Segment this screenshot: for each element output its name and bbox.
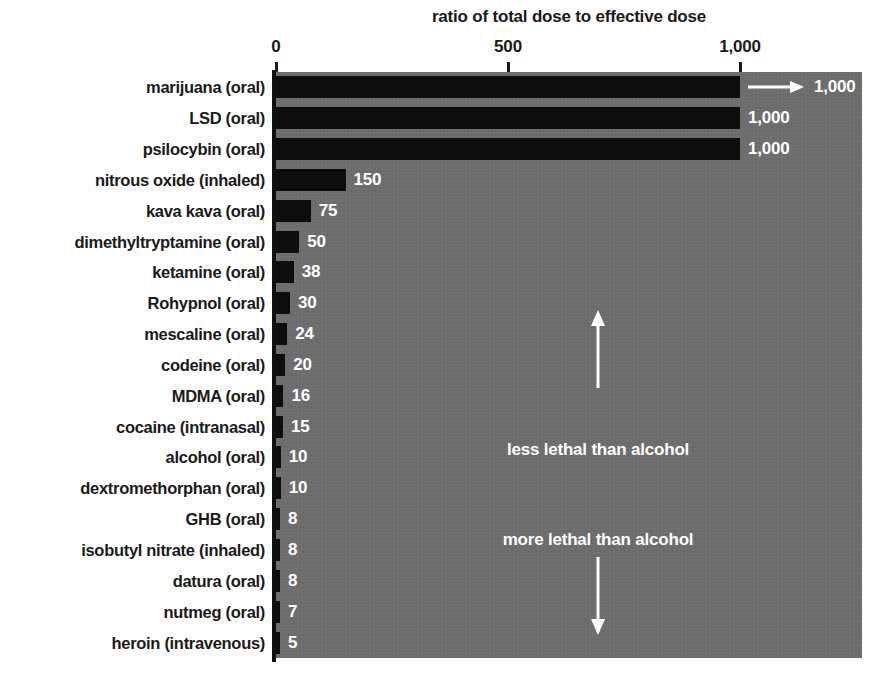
bar-category-label: heroin (intravenous) <box>111 633 265 652</box>
bar-row: codeine (oral)20 <box>0 350 878 381</box>
bar <box>276 354 285 376</box>
bar <box>276 231 299 253</box>
bar-category-label: marijuana (oral) <box>146 78 265 97</box>
bar-value-label: 1,000 <box>748 139 790 159</box>
annotation-text: less lethal than alcohol <box>507 440 689 460</box>
bar-value-label: 16 <box>291 386 310 406</box>
bar-row: LSD (oral)1,000 <box>0 103 878 134</box>
bar <box>276 138 740 160</box>
bar-value-label: 10 <box>289 478 308 498</box>
bar-value-label: 8 <box>288 509 297 529</box>
bar-row: kava kava (oral)75 <box>0 195 878 226</box>
bar-category-label: mescaline (oral) <box>144 325 265 344</box>
bar-category-label: ketamine (oral) <box>152 263 265 282</box>
bar <box>276 632 280 654</box>
bar-value-label: 20 <box>293 355 312 375</box>
bar-row: dextromethorphan (oral)10 <box>0 473 878 504</box>
bar <box>276 261 294 283</box>
bar-category-label: nitrous oxide (inhaled) <box>95 170 265 189</box>
bar-value-label: 8 <box>288 540 297 560</box>
bar-value-label: 15 <box>291 417 310 437</box>
bar <box>276 107 740 129</box>
bar <box>276 446 281 468</box>
bar-category-label: codeine (oral) <box>161 355 265 374</box>
bar-row: dimethyltryptamine (oral)50 <box>0 226 878 257</box>
bar-category-label: dimethyltryptamine (oral) <box>74 232 265 251</box>
bar <box>276 539 280 561</box>
bar-row: cocaine (intranasal)15 <box>0 411 878 442</box>
bar-value-label: 30 <box>298 293 317 313</box>
bar-value-label: 5 <box>288 633 297 653</box>
bar-value-label: 7 <box>288 602 297 622</box>
overflow-arrow-right-icon <box>748 80 804 94</box>
bar <box>276 601 280 623</box>
bar <box>276 416 283 438</box>
bar-row: psilocybin (oral)1,000 <box>0 134 878 165</box>
bar-value-label: 8 <box>288 571 297 591</box>
bar <box>276 169 346 191</box>
bar <box>276 76 740 98</box>
bar-row: datura (oral)8 <box>0 565 878 596</box>
bar-value-label: 10 <box>289 447 308 467</box>
annotation-text: more lethal than alcohol <box>503 530 694 550</box>
bar-category-label: isobutyl nitrate (inhaled) <box>81 541 265 560</box>
bar-category-label: cocaine (intranasal) <box>116 417 265 436</box>
x-axis-tick-labels: 05001,000 <box>0 37 878 61</box>
bar <box>276 200 311 222</box>
bar-category-label: LSD (oral) <box>189 109 265 128</box>
x-tick-mark-1000 <box>739 62 742 72</box>
bar-value-label: 50 <box>307 232 326 252</box>
bar-row: alcohol (oral)10 <box>0 442 878 473</box>
bar-row: isobutyl nitrate (inhaled)8 <box>0 535 878 566</box>
bar <box>276 477 281 499</box>
bar <box>276 570 280 592</box>
bar-category-label: psilocybin (oral) <box>143 140 265 159</box>
bar-category-label: MDMA (oral) <box>172 386 265 405</box>
bar-row: mescaline (oral)24 <box>0 319 878 350</box>
bar <box>276 323 287 345</box>
bar-row: nutmeg (oral)7 <box>0 596 878 627</box>
bar-row: MDMA (oral)16 <box>0 380 878 411</box>
bar-category-label: Rohypnol (oral) <box>148 294 265 313</box>
bar-value-label: 150 <box>354 170 382 190</box>
bar-row: ketamine (oral)38 <box>0 257 878 288</box>
x-tick-label-1000: 1,000 <box>719 37 761 57</box>
bar-category-label: alcohol (oral) <box>166 448 265 467</box>
bar <box>276 508 280 530</box>
annotation-arrow-down-icon <box>590 555 606 639</box>
bar-value-label: 1,000 <box>748 108 790 128</box>
bar-category-label: datura (oral) <box>173 571 265 590</box>
bar-row: Rohypnol (oral)30 <box>0 288 878 319</box>
bar-value-label: 75 <box>319 201 338 221</box>
bar-category-label: kava kava (oral) <box>146 201 265 220</box>
bar-category-label: GHB (oral) <box>185 510 265 529</box>
bar-row: nitrous oxide (inhaled)150 <box>0 165 878 196</box>
chart-title: ratio of total dose to effective dose <box>276 7 862 27</box>
bar-value-label: 38 <box>302 262 321 282</box>
bar-value-label: 1,000 <box>814 77 856 97</box>
bar-chart: ratio of total dose to effective dose 05… <box>0 0 878 681</box>
bar <box>276 292 290 314</box>
bar-category-label: nutmeg (oral) <box>163 602 265 621</box>
x-tick-label-500: 500 <box>494 37 522 57</box>
x-tick-mark-500 <box>507 62 510 72</box>
annotation-arrow-up-icon <box>590 310 606 394</box>
bar-row: heroin (intravenous)5 <box>0 627 878 658</box>
bar <box>276 385 283 407</box>
bar-category-label: dextromethorphan (oral) <box>80 479 265 498</box>
bar-row: GHB (oral)8 <box>0 504 878 535</box>
bar-row: marijuana (oral)1,000 <box>0 72 878 103</box>
bar-value-label: 24 <box>295 324 314 344</box>
x-tick-label-0: 0 <box>271 37 280 57</box>
